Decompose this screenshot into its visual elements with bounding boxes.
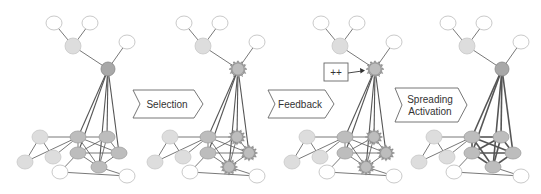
activated-node-core: [370, 64, 381, 75]
edge: [78, 69, 108, 137]
node-tr: [119, 35, 135, 49]
panel-initial: [17, 16, 135, 183]
node-t2: [212, 16, 228, 30]
node-w2: [249, 169, 265, 183]
node-c: [439, 150, 455, 164]
node-t1: [440, 16, 456, 30]
node-c: [175, 150, 191, 164]
node-d: [200, 131, 216, 143]
node-t1: [176, 16, 192, 30]
node-d: [70, 131, 86, 143]
node-f: [99, 131, 115, 143]
edge: [472, 69, 502, 137]
node-t1: [46, 16, 62, 30]
node-b: [284, 155, 300, 169]
node-f: [493, 131, 509, 143]
edge: [99, 69, 108, 167]
node-g: [332, 38, 348, 54]
activated-node-core: [232, 132, 242, 142]
node-a: [162, 130, 178, 144]
node-tr: [513, 35, 529, 49]
node-b: [411, 155, 427, 169]
edge: [208, 69, 238, 137]
node-t2: [82, 16, 98, 30]
node-g: [65, 38, 81, 54]
node-t1: [313, 16, 329, 30]
node-h: [505, 147, 521, 159]
activated-node-core: [224, 162, 234, 172]
stage-arrow-selection: Selection: [133, 90, 203, 118]
activated-node-core: [369, 132, 379, 142]
feedback-arrow: [348, 71, 362, 73]
edge: [366, 69, 375, 167]
edge: [229, 69, 238, 167]
node-hub: [101, 62, 115, 76]
node-tr: [249, 35, 265, 49]
node-g: [459, 38, 475, 54]
node-w1: [182, 165, 198, 179]
stage-arrow-label: Activation: [408, 106, 451, 117]
node-t2: [349, 16, 365, 30]
node-b: [147, 155, 163, 169]
feedback-box-label: ++: [330, 67, 342, 78]
node-a: [426, 130, 442, 144]
node-e: [337, 147, 353, 159]
node-a: [299, 130, 315, 144]
stage-arrow-spreading-activation: SpreadingActivation: [395, 88, 467, 122]
node-w2: [119, 169, 135, 183]
stage-arrow-label: Spreading: [407, 94, 453, 105]
stage-arrow-label: Selection: [146, 99, 187, 110]
node-d: [337, 131, 353, 143]
node-i: [485, 161, 501, 173]
node-t2: [476, 16, 492, 30]
node-tr: [386, 35, 402, 49]
activated-node-core: [381, 148, 391, 158]
node-w2: [386, 169, 402, 183]
nodes: [17, 16, 135, 183]
stage-arrows: SelectionFeedbackSpreadingActivation: [133, 88, 467, 122]
activated-node-core: [361, 162, 371, 172]
feedback-box-group: ++: [324, 63, 365, 81]
stage-arrow-label: Feedback: [278, 99, 323, 110]
activated-node-core: [233, 64, 244, 75]
node-w1: [446, 165, 462, 179]
node-w1: [319, 165, 335, 179]
activated-node-core: [244, 148, 254, 158]
node-c: [312, 150, 328, 164]
node-a: [32, 130, 48, 144]
node-c: [45, 150, 61, 164]
node-hub: [495, 62, 509, 76]
node-g: [195, 38, 211, 54]
node-w2: [513, 169, 529, 183]
node-e: [200, 147, 216, 159]
node-i: [91, 161, 107, 173]
node-e: [464, 147, 480, 159]
node-h: [111, 147, 127, 159]
node-d: [464, 131, 480, 143]
arrowhead-icon: [360, 68, 365, 74]
node-b: [17, 155, 33, 169]
edge: [345, 69, 375, 137]
node-e: [70, 147, 86, 159]
spreading-activation-diagram: SelectionFeedbackSpreadingActivation ++: [0, 0, 541, 194]
node-w1: [52, 165, 68, 179]
stage-arrow-feedback: Feedback: [268, 90, 334, 118]
